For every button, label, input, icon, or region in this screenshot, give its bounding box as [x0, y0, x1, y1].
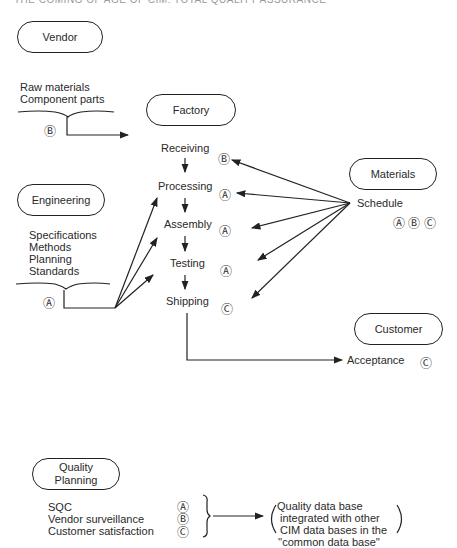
- step-shipping-code: Ⓒ: [221, 300, 233, 317]
- engineering-code-badge: Ⓐ: [43, 294, 55, 311]
- quality-planning-label-1: Quality: [59, 461, 93, 474]
- customer-acceptance-code: Ⓒ: [420, 354, 432, 371]
- quality-planning-node: Quality Planning: [32, 458, 120, 490]
- engineering-input-standards: Standards: [29, 265, 79, 278]
- step-testing-code: Ⓐ: [220, 262, 232, 279]
- step-shipping: Shipping: [166, 295, 209, 308]
- customer-node: Customer: [354, 313, 443, 345]
- step-testing: Testing: [170, 257, 205, 270]
- step-assembly-code: Ⓐ: [219, 222, 231, 239]
- factory-node: Factory: [146, 94, 236, 126]
- vendor-label: Vendor: [43, 31, 78, 44]
- step-processing-code: Ⓐ: [219, 186, 231, 203]
- customer-label: Customer: [375, 323, 423, 336]
- materials-node: Materials: [349, 158, 437, 190]
- factory-label: Factory: [173, 104, 210, 117]
- vendor-code-badge: Ⓑ: [44, 122, 56, 139]
- quality-item-customer-satisfaction: Customer satisfaction: [48, 525, 154, 538]
- quality-db-line4: ''common data base'': [278, 536, 380, 548]
- step-processing: Processing: [158, 180, 212, 193]
- step-receiving: Receiving: [161, 142, 209, 155]
- materials-schedule-label: Schedule: [357, 197, 403, 210]
- customer-acceptance-label: Acceptance: [347, 354, 404, 367]
- vendor-input-component-parts: Component parts: [20, 93, 104, 106]
- step-assembly: Assembly: [164, 218, 212, 231]
- quality-planning-label-2: Planning: [55, 474, 98, 487]
- engineering-node: Engineering: [17, 184, 105, 216]
- engineering-label: Engineering: [32, 194, 91, 207]
- materials-label: Materials: [371, 168, 416, 181]
- vendor-node: Vendor: [17, 21, 103, 53]
- materials-schedule-codes: Ⓐ Ⓑ Ⓒ: [393, 214, 436, 231]
- quality-item-customer-code: Ⓒ: [177, 523, 189, 540]
- step-receiving-code: Ⓑ: [218, 150, 230, 167]
